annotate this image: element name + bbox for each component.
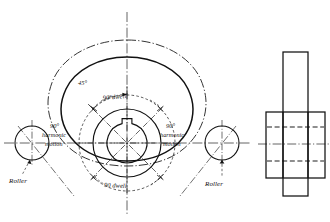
label-roller-right: Roller [204, 180, 223, 188]
svg-text:motion: motion [45, 141, 63, 147]
svg-text:90°: 90° [50, 122, 60, 129]
svg-text:harmonic: harmonic [160, 132, 184, 138]
cam-plan-view: 45° 90°dwell 90 dwell 90° harmonic motio… [4, 12, 250, 214]
cam-side-elevation [258, 52, 329, 196]
technical-drawing: 45° 90°dwell 90 dwell 90° harmonic motio… [0, 0, 330, 222]
label-dwell-top: 90°dwell [102, 92, 126, 101]
roller-right-arrowhead [220, 160, 225, 164]
label-harmonic-left: 90° harmonic motion [42, 122, 66, 147]
dwell-bottom-leader-right [151, 177, 160, 185]
svg-text:motion: motion [163, 141, 181, 147]
svg-text:harmonic: harmonic [42, 132, 66, 138]
angle-45-tick [88, 104, 97, 113]
dwell-bottom-leader-left [95, 177, 104, 184]
cam-drawing-canvas: 45° 90°dwell 90 dwell 90° harmonic motio… [0, 0, 330, 222]
svg-text:90°: 90° [166, 122, 176, 129]
intersection-mask [284, 113, 307, 177]
label-dwell-bottom: 90 dwell [104, 181, 127, 189]
dwell-top-leader-right [150, 100, 161, 107]
roller-left-arrowhead [27, 160, 31, 164]
label-roller-left: Roller [8, 177, 27, 185]
label-angle-45: 45° [78, 79, 88, 86]
